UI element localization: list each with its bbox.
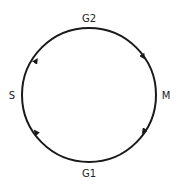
phase-label-m: M bbox=[162, 90, 171, 101]
arrow-s-to-g2-icon bbox=[35, 61, 37, 64]
phase-label-g1: G1 bbox=[82, 168, 96, 179]
cell-cycle-diagram: G2 M G1 S bbox=[0, 0, 179, 184]
phase-label-s: S bbox=[9, 90, 15, 101]
cycle-ring bbox=[22, 28, 156, 162]
arrow-g1-to-s-icon bbox=[36, 132, 38, 135]
arrow-g2-to-m-icon bbox=[142, 55, 144, 58]
phase-label-g2: G2 bbox=[82, 13, 96, 24]
